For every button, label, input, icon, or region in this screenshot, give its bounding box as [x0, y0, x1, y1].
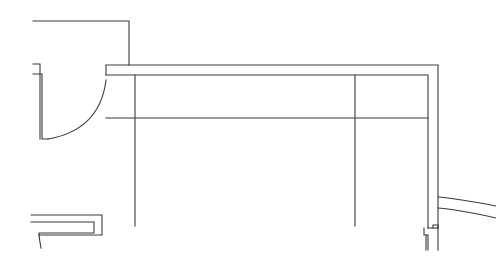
counter-inner-outline [106, 75, 428, 228]
door-jamb-top [33, 64, 40, 139]
shelf-outer [31, 215, 102, 235]
post-side [433, 225, 438, 250]
shelf-inner [31, 222, 94, 235]
upper-room-boundary [33, 21, 129, 65]
pipe-curve-upper [438, 197, 496, 206]
shelf-arc [39, 235, 41, 248]
counter-outer-outline [106, 65, 438, 228]
pipe-curve-lower [438, 208, 496, 218]
floor-plan-drawing [0, 0, 496, 265]
door-swing-arc [48, 80, 106, 139]
floor-plan-canvas [0, 0, 496, 265]
